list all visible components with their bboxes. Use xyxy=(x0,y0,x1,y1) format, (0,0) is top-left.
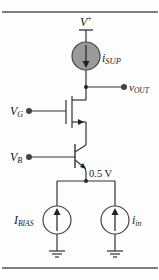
supply-current-source: iSUP xyxy=(72,42,121,70)
base-terminal xyxy=(26,154,32,160)
circuit-diagram: V+ iSUP vOUT VG VB 0.5 V xyxy=(0,0,159,280)
supply-label: V+ xyxy=(80,14,92,29)
ground-icon xyxy=(49,251,65,257)
bias-current-label: IBIAS xyxy=(13,213,34,228)
ground-icon xyxy=(107,251,123,257)
input-current-label: iin xyxy=(132,213,142,228)
supply-terminal: V+ xyxy=(79,14,93,30)
arrow-right-icon xyxy=(78,119,84,125)
mosfet xyxy=(66,96,86,145)
input-current-source: iin xyxy=(101,206,142,234)
output-terminal xyxy=(121,84,127,90)
bias-current-source: IBIAS xyxy=(13,206,71,234)
base-label: VB xyxy=(10,150,22,165)
emitter-voltage-label: 0.5 V xyxy=(89,168,113,179)
gate-label: VG xyxy=(10,104,23,119)
gate-terminal xyxy=(26,108,32,114)
output-label: vOUT xyxy=(129,81,150,95)
supply-current-label: iSUP xyxy=(102,51,121,66)
bjt xyxy=(75,144,86,181)
circuit-schematic: V+ iSUP vOUT VG VB 0.5 V xyxy=(0,0,159,280)
